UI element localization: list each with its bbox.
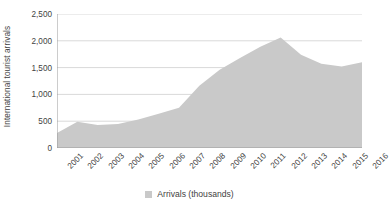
x-tick-label-2013: 2013	[310, 151, 329, 170]
y-tick-label-1500: 1,500	[32, 63, 53, 72]
y-tick-label-0: 0	[47, 144, 52, 153]
x-tick-label-2001: 2001	[66, 151, 85, 170]
x-tick-label-2007: 2007	[188, 151, 207, 170]
x-tick-label-2008: 2008	[208, 151, 227, 170]
plot-area	[57, 14, 362, 148]
x-tick-label-2006: 2006	[168, 151, 187, 170]
y-tick-label-2000: 2,000	[32, 36, 53, 45]
x-tick-label-2016: 2016	[371, 151, 390, 170]
series-area-arrivals	[57, 38, 362, 148]
legend-swatch-arrivals	[145, 191, 152, 198]
area-fill-arrivals	[57, 38, 362, 148]
x-tick-label-2003: 2003	[107, 151, 126, 170]
y-axis-title: International tourist arrivals	[0, 0, 16, 152]
x-axis-tick-labels: 2001200220032004200520062007200820092010…	[57, 150, 362, 184]
area-chart-svg	[57, 14, 362, 148]
y-tick-label-1000: 1,000	[32, 90, 53, 99]
legend-label-arrivals: Arrivals (thousands)	[157, 189, 233, 199]
x-tick-label-2002: 2002	[86, 151, 105, 170]
x-tick-label-2015: 2015	[351, 151, 370, 170]
x-tick-label-2005: 2005	[147, 151, 166, 170]
x-tick-label-2011: 2011	[269, 151, 288, 170]
x-tick-label-2014: 2014	[330, 151, 349, 170]
x-tick-label-2012: 2012	[290, 151, 309, 170]
x-tick-label-2010: 2010	[249, 151, 268, 170]
y-axis-tick-labels: 05001,0001,5002,0002,500	[16, 0, 55, 160]
chart-legend: Arrivals (thousands)	[0, 185, 379, 203]
y-tick-label-500: 500	[38, 117, 52, 126]
y-axis-title-text: International tourist arrivals	[4, 25, 13, 126]
y-tick-label-2500: 2,500	[32, 10, 53, 19]
x-tick-label-2004: 2004	[127, 151, 146, 170]
x-tick-label-2009: 2009	[229, 151, 248, 170]
